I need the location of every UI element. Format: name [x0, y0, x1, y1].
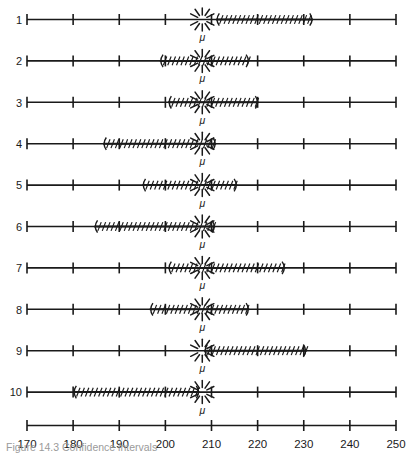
- mu-ray: [191, 138, 198, 141]
- interval-row: 2μ: [16, 49, 396, 84]
- row-label: 7: [16, 262, 22, 274]
- interval-row: 8μ: [16, 298, 396, 333]
- mu-ray: [205, 396, 209, 402]
- interval-row: 6μ: [16, 215, 396, 250]
- mu-ray: [195, 106, 199, 112]
- mu-ray: [205, 65, 209, 71]
- mu-ray: [205, 148, 209, 154]
- interval-row: 9μ: [16, 339, 396, 374]
- mu-ray: [207, 97, 214, 100]
- mu-ray: [207, 394, 214, 397]
- mu-ray: [207, 22, 214, 25]
- mu-ray: [205, 175, 209, 181]
- mu-ray: [195, 148, 199, 154]
- row-label: 6: [16, 221, 22, 233]
- mu-label: μ: [198, 238, 205, 250]
- mu-ray: [191, 353, 198, 356]
- row-label: 10: [10, 386, 22, 398]
- row-label: 8: [16, 304, 22, 316]
- mu-ray: [207, 312, 214, 315]
- confidence-interval-figure: 1μ2μ3μ4μ5μ6μ7μ8μ9μ10μ 170180190200210220…: [0, 0, 415, 455]
- mu-ray: [205, 134, 209, 140]
- mu-label: μ: [198, 155, 205, 167]
- mu-ray: [195, 355, 199, 361]
- row-label: 3: [16, 97, 22, 109]
- interval-rows-group: 1μ2μ3μ4μ5μ6μ7μ8μ9μ10μ: [10, 8, 396, 416]
- mu-ray: [207, 387, 214, 390]
- mu-ray: [205, 106, 209, 112]
- mu-ray: [191, 63, 198, 66]
- mu-label: μ: [198, 31, 205, 43]
- mu-ray: [195, 272, 199, 278]
- mu-label: μ: [198, 321, 205, 333]
- mu-ray: [195, 313, 199, 319]
- mu-ray: [205, 24, 209, 30]
- row-label: 1: [16, 14, 22, 26]
- row-label: 5: [16, 179, 22, 191]
- mu-ray: [205, 313, 209, 319]
- mu-label: μ: [198, 72, 205, 84]
- mu-ray: [205, 258, 209, 264]
- mu-ray: [191, 221, 198, 224]
- mu-ray: [195, 189, 199, 195]
- mu-ray: [195, 216, 199, 222]
- mu-ray: [191, 312, 198, 315]
- mu-ray: [195, 258, 199, 264]
- mu-label: μ: [198, 114, 205, 126]
- mu-ray: [205, 92, 209, 98]
- interval-row: 10μ: [10, 381, 396, 416]
- mu-ray: [195, 175, 199, 181]
- mu-ray: [195, 65, 199, 71]
- row-label: 2: [16, 55, 22, 67]
- mu-ray: [205, 272, 209, 278]
- interval-row: 3μ: [16, 91, 396, 126]
- mu-ray: [207, 262, 214, 265]
- figure-caption: Figure 14.3 Confidence intervals: [6, 441, 409, 454]
- mu-ray: [205, 9, 209, 15]
- mu-ray: [207, 105, 214, 108]
- interval-row: 5μ: [16, 174, 396, 209]
- mu-ray: [191, 229, 198, 232]
- mu-ray: [205, 382, 209, 388]
- mu-ray: [191, 55, 198, 58]
- mu-ray: [195, 51, 199, 57]
- interval-row: 4μ: [16, 132, 396, 167]
- mu-ray: [191, 187, 198, 190]
- mu-label: μ: [198, 362, 205, 374]
- row-label: 4: [16, 138, 22, 150]
- interval-row: 7μ: [16, 256, 396, 291]
- mu-label: μ: [198, 197, 205, 209]
- mu-ray: [207, 14, 214, 17]
- mu-ray: [205, 51, 209, 57]
- mu-ray: [195, 9, 199, 15]
- mu-ray: [195, 92, 199, 98]
- mu-ray: [205, 189, 209, 195]
- mu-ray: [191, 22, 198, 25]
- mu-ray: [195, 341, 199, 347]
- mu-ray: [195, 24, 199, 30]
- mu-label: μ: [198, 279, 205, 291]
- mu-ray: [191, 146, 198, 149]
- mu-ray: [205, 299, 209, 305]
- mu-ray: [207, 270, 214, 273]
- row-label: 9: [16, 345, 22, 357]
- mu-label: μ: [198, 404, 205, 416]
- mu-ray: [191, 14, 198, 17]
- mu-ray: [195, 231, 199, 237]
- mu-ray: [191, 180, 198, 183]
- interval-row: 1μ: [16, 8, 396, 43]
- mu-ray: [191, 345, 198, 348]
- mu-ray: [195, 134, 199, 140]
- mu-ray: [195, 299, 199, 305]
- mu-ray: [205, 216, 209, 222]
- mu-ray: [205, 231, 209, 237]
